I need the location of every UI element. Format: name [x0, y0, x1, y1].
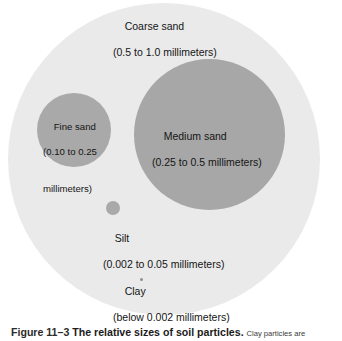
coarse-sand-label: Coarse sand (0.5 to 1.0 millimeters) — [113, 7, 217, 85]
silt-size-range: (0.002 to 0.05 millimeters) — [103, 258, 224, 271]
fine-sand-size-range-line2: millimeters) — [43, 183, 97, 196]
soil-particle-size-figure: Coarse sand (0.5 to 1.0 millimeters) Fin… — [0, 0, 342, 341]
medium-sand-name: Medium sand — [164, 130, 227, 142]
caption-figure-number: Figure 11–3 — [11, 326, 69, 338]
medium-sand-size-range: (0.25 to 0.5 millimeters) — [152, 156, 262, 169]
silt-name: Silt — [115, 232, 130, 244]
medium-sand-label: Medium sand (0.25 to 0.5 millimeters) — [152, 117, 262, 195]
clay-name: Clay — [125, 285, 146, 297]
caption-title: The relative sizes of soil particles. — [72, 326, 243, 338]
coarse-sand-name: Coarse sand — [125, 20, 185, 32]
silt-circle — [106, 201, 120, 215]
fine-sand-size-range-line1: (0.10 to 0.25 — [43, 146, 97, 159]
fine-sand-label: Fine sand (0.10 to 0.25 millimeters) — [43, 108, 97, 221]
caption-body-text: Clay particles are — [247, 329, 306, 338]
figure-caption: Figure 11–3 The relative sizes of soil p… — [11, 326, 342, 340]
fine-sand-name: Fine sand — [54, 121, 96, 132]
clay-size-range: (below 0.002 millimeters) — [113, 311, 230, 324]
coarse-sand-size-range: (0.5 to 1.0 millimeters) — [113, 46, 217, 59]
